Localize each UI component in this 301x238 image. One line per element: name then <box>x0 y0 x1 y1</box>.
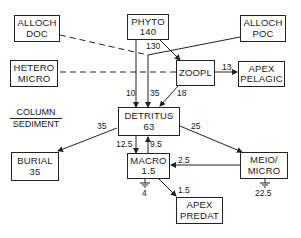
node-label: APEX <box>186 200 212 211</box>
node-detritus: DETRITUS 63 <box>118 107 180 136</box>
node-label: ALLOCH <box>17 18 56 29</box>
flow-label-column-detritus: 35 <box>150 89 159 98</box>
node-phyto: PHYTO 140 <box>127 14 169 40</box>
node-hetero-micro: HETERO MICRO <box>10 60 58 87</box>
sediment-label: SEDIMENT <box>10 119 62 129</box>
node-burial: BURIAL 35 <box>11 152 59 181</box>
flow-label-detritus-macro: 12.5 <box>116 140 133 149</box>
node-label: MEIO/ <box>250 155 278 166</box>
flow-label-macro-detritus: 9.5 <box>150 140 162 149</box>
flow-label-phyto-detritus: 10 <box>126 89 135 98</box>
node-value: 1.5 <box>142 166 156 177</box>
flow-label-macro-respiration: 4 <box>142 189 147 198</box>
node-label: PELAGIC <box>240 74 283 85</box>
node-alloch-poc: ALLOCH POC <box>240 15 286 42</box>
node-value: 140 <box>140 27 156 38</box>
node-value: 63 <box>144 122 155 133</box>
flow-label-detritus-meio: 25 <box>191 122 200 131</box>
node-alloch-doc: ALLOCH DOC <box>14 15 60 42</box>
node-label: MICRO <box>18 74 51 85</box>
node-label: HETERO <box>14 63 55 74</box>
node-label: DOC <box>26 29 48 40</box>
node-macro: MACRO 1.5 <box>127 153 170 179</box>
node-label: ALLOCH <box>243 18 282 29</box>
column-label: COLUMN <box>10 107 62 119</box>
node-meio-micro: MEIO/ MICRO <box>240 152 288 179</box>
flow-label-meio-respiration: 22.5 <box>255 189 272 198</box>
node-label: BURIAL <box>17 156 53 167</box>
node-label: MICRO <box>248 166 281 177</box>
node-zoopl: ZOOPL <box>176 60 215 86</box>
flow-label-phyto-zoopl: 130 <box>146 42 160 51</box>
flow-label-macro-apex-predat: 1.5 <box>178 186 190 195</box>
node-label: ZOOPL <box>179 68 212 79</box>
node-apex-predat: APEX PREDAT <box>176 197 223 224</box>
node-label: DETRITUS <box>124 111 173 122</box>
node-value: 35 <box>30 167 41 178</box>
node-label: PREDAT <box>180 211 219 222</box>
column-sediment-divider: COLUMN SEDIMENT <box>10 107 62 129</box>
node-label: POC <box>252 29 273 40</box>
flow-label-meio-macro: 2.5 <box>178 156 190 165</box>
flow-label-zoopl-apex-pelagic: 13 <box>222 63 231 72</box>
flow-label-zoopl-detritus: 18 <box>177 89 186 98</box>
node-apex-pelagic: APEX PELAGIC <box>238 61 285 87</box>
flow-label-detritus-burial: 35 <box>97 122 106 131</box>
